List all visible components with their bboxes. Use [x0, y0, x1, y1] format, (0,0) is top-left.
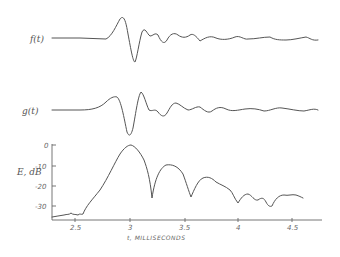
x-axis-label: t, MILLISECONDS	[127, 234, 186, 241]
x-tick-label-4.5: 4.5	[287, 224, 299, 232]
x-tick-label-2.5: 2.5	[70, 224, 82, 232]
energy-plot: 0 -10 -20 -30 E, dB 2.5 3 3.5 4 4.5 t, M…	[16, 142, 322, 241]
y-axis-label: E, dB	[16, 167, 42, 177]
figure-canvas: f(t) g(t) 0 -10 -20 -30 E, dB 2.5 3 3.5 …	[0, 0, 340, 257]
energy-curve	[52, 145, 303, 217]
x-tick-label-3: 3	[128, 224, 132, 232]
x-tick-label-4: 4	[236, 224, 240, 232]
f-trace-panel: f(t)	[29, 17, 318, 62]
f-trace-label: f(t)	[29, 34, 44, 44]
y-tick-label-0: 0	[44, 142, 49, 150]
x-tick-label-3.5: 3.5	[179, 224, 191, 232]
y-tick-label-20: -20	[35, 183, 47, 191]
g-trace-label: g(t)	[22, 106, 39, 116]
g-trace-panel: g(t)	[22, 92, 318, 135]
g-trace-line	[52, 92, 318, 135]
f-trace-line	[52, 17, 318, 62]
y-tick-label-30: -30	[35, 203, 47, 211]
